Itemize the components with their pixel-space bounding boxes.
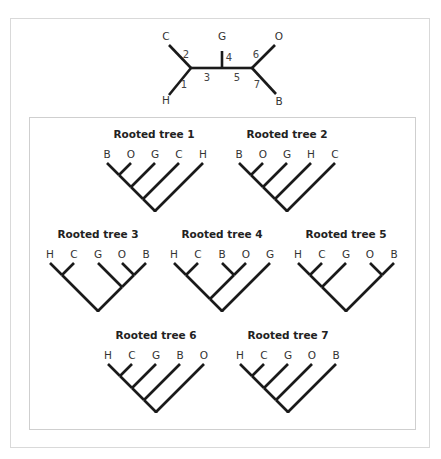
rooted-tree-4: Rooted tree 4HCBOG [170, 228, 274, 312]
rooted-tree-5: Rooted tree 5HCGOB [294, 228, 398, 312]
branch [134, 263, 146, 275]
taxon-label: O [200, 349, 208, 361]
branch [251, 175, 263, 187]
taxon-label: H [104, 349, 112, 361]
taxon-label: O [308, 349, 316, 361]
taxon-label: O [118, 248, 126, 260]
taxon-label: H [294, 248, 302, 260]
branch [156, 364, 204, 412]
branch [98, 263, 122, 287]
branch [370, 263, 382, 275]
edge-number-label: 2 [183, 49, 189, 60]
taxon-label: H [162, 94, 170, 106]
branch [287, 163, 335, 211]
taxon-label: B [142, 248, 149, 260]
taxon-label: O [127, 148, 135, 160]
branch [346, 275, 382, 311]
taxon-label: B [176, 349, 183, 361]
taxon-label: G [266, 248, 274, 260]
taxon-label: C [162, 30, 169, 42]
edge-number-label: 7 [254, 79, 260, 90]
branch [275, 199, 287, 211]
taxon-label: C [318, 248, 325, 260]
tree-title: Rooted tree 1 [113, 128, 194, 140]
branch [288, 364, 336, 412]
branch [108, 364, 120, 376]
taxon-label: C [70, 248, 77, 260]
rooted-tree-1: Rooted tree 1BOGCH [103, 128, 207, 212]
tree-title: Rooted tree 3 [57, 228, 138, 240]
branch [264, 364, 288, 388]
taxon-label: G [151, 148, 159, 160]
branch [119, 163, 131, 175]
branch [143, 199, 155, 211]
edge-number-label: 4 [226, 52, 232, 63]
branch [107, 163, 119, 175]
taxon-label: B [332, 349, 339, 361]
taxon-label: C [175, 148, 182, 160]
branch [62, 263, 74, 275]
edge-number-label: 1 [181, 79, 187, 90]
taxon-label: H [307, 148, 315, 160]
taxon-label: B [390, 248, 397, 260]
tree-title: Rooted tree 4 [181, 228, 262, 240]
branch [186, 275, 210, 299]
branch [276, 400, 288, 412]
edge-number-label: 6 [253, 49, 259, 60]
edge-number-label: 3 [204, 72, 210, 83]
rooted-tree-7: Rooted tree 7HCGOB [236, 329, 340, 413]
branch [240, 364, 252, 376]
tree-title: Rooted tree 6 [115, 329, 196, 341]
branch [155, 163, 203, 211]
branch [310, 275, 322, 287]
branch [322, 287, 346, 311]
branch [298, 263, 310, 275]
branch [186, 263, 198, 275]
taxon-label: O [275, 30, 283, 42]
branch [122, 275, 134, 287]
taxon-label: B [103, 148, 110, 160]
tree-title: Rooted tree 2 [246, 128, 327, 140]
branch [132, 388, 144, 400]
taxon-label: B [235, 148, 242, 160]
taxon-label: C [128, 349, 135, 361]
rooted-tree-2: Rooted tree 2BOGHC [235, 128, 338, 212]
branch [210, 299, 222, 311]
taxon-label: G [283, 148, 291, 160]
edge-number-label: 5 [234, 72, 240, 83]
taxon-label: O [242, 248, 250, 260]
branch [62, 275, 98, 311]
rooted-tree-6: Rooted tree 6HCGBO [104, 329, 208, 413]
branch [222, 263, 234, 275]
taxon-label: H [46, 248, 54, 260]
branch [252, 364, 264, 376]
taxon-label: G [152, 349, 160, 361]
taxon-label: G [218, 30, 226, 42]
branch [210, 275, 234, 299]
taxon-label: B [275, 95, 282, 107]
branch [264, 388, 276, 400]
phylogeny-diagram: 1234567CHGOB Rooted tree 1BOGCHRooted tr… [0, 0, 441, 459]
branch [119, 175, 131, 187]
tree-title: Rooted tree 5 [305, 228, 386, 240]
taxon-label: O [259, 148, 267, 160]
branch [252, 376, 264, 388]
taxon-label: B [218, 248, 225, 260]
branch [310, 263, 322, 275]
branch [98, 287, 122, 311]
taxon-label: H [236, 349, 244, 361]
taxon-label: C [331, 148, 338, 160]
rooted-trees: Rooted tree 1BOGCHRooted tree 2BOGHCRoot… [46, 128, 398, 413]
taxon-label: O [366, 248, 374, 260]
branch [144, 400, 156, 412]
taxon-label: G [94, 248, 102, 260]
branch [239, 163, 251, 175]
taxon-label: G [284, 349, 292, 361]
branch [322, 263, 346, 287]
branch [251, 163, 263, 175]
taxon-label: C [194, 248, 201, 260]
branch [382, 263, 394, 275]
branch [263, 187, 275, 199]
branch [131, 163, 155, 187]
rooted-tree-3: Rooted tree 3HCGOB [46, 228, 150, 312]
